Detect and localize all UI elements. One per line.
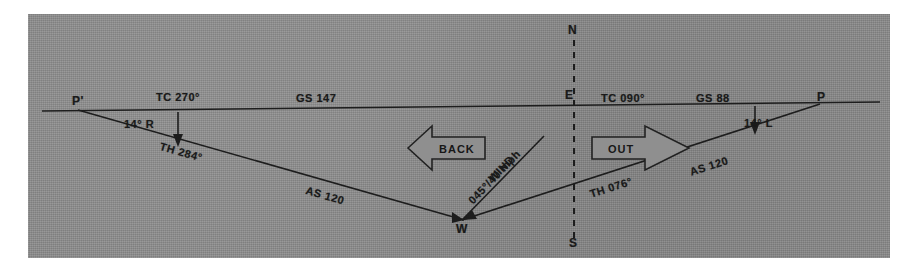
point-label-north: N <box>568 23 577 37</box>
outbound-true-course-label: TC 090° <box>601 92 645 104</box>
out-block-arrow <box>592 126 689 170</box>
inbound-ground-speed-label: GS 147 <box>296 92 336 104</box>
inbound-drift-label: 14° R <box>124 118 154 130</box>
out-arrow-label: OUT <box>608 143 634 155</box>
wind-triangle-figure: P' E P W N S TC 270° GS 147 14° R TH 284… <box>28 14 890 258</box>
point-label-e: E <box>565 88 574 102</box>
inbound-true-course-label: TC 270° <box>156 91 200 103</box>
back-arrow-label: BACK <box>439 143 475 155</box>
point-label-w: W <box>456 222 468 236</box>
screenshot-canvas: P' E P W N S TC 270° GS 147 14° R TH 284… <box>0 0 914 279</box>
point-label-south: S <box>569 236 578 250</box>
point-label-p: P <box>817 90 826 104</box>
outbound-ground-speed-label: GS 88 <box>696 92 730 104</box>
point-label-p-prime: P' <box>72 94 84 108</box>
outbound-drift-label: 14° L <box>744 117 773 129</box>
